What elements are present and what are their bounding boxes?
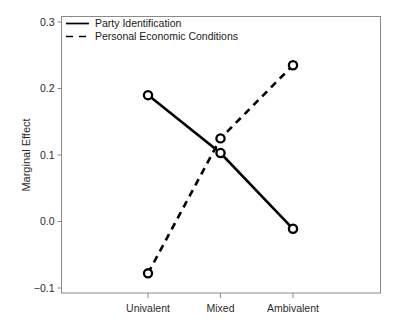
data-point-marker bbox=[216, 149, 224, 157]
data-point-marker bbox=[144, 91, 152, 99]
data-point-marker bbox=[144, 269, 152, 277]
y-tick-label: 0.3 bbox=[40, 16, 55, 28]
y-tick-label: −0.1 bbox=[34, 282, 55, 294]
y-axis-tick-labels: 0.30.20.10.0−0.1 bbox=[34, 16, 55, 294]
y-tick-label: 0.1 bbox=[40, 149, 55, 161]
marginal-effect-line-chart: 0.30.20.10.0−0.1 UnivalentMixedAmbivalen… bbox=[0, 0, 397, 331]
y-tick-label: 0.2 bbox=[40, 82, 55, 94]
data-point-marker bbox=[289, 225, 297, 233]
x-axis-category-labels: UnivalentMixedAmbivalent bbox=[126, 302, 319, 314]
chart-figure: 0.30.20.10.0−0.1 UnivalentMixedAmbivalen… bbox=[0, 0, 397, 331]
y-axis-title: Marginal Effect bbox=[20, 118, 32, 191]
legend-entry-label: Party Identification bbox=[95, 17, 182, 29]
y-tick-label: 0.0 bbox=[40, 215, 55, 227]
x-category-label: Ambivalent bbox=[267, 302, 319, 314]
x-axis-ticks bbox=[148, 293, 293, 298]
legend-entry-label: Personal Economic Conditions bbox=[95, 30, 238, 42]
data-point-marker bbox=[216, 134, 224, 142]
x-category-label: Univalent bbox=[126, 302, 170, 314]
y-axis-ticks bbox=[58, 22, 62, 288]
x-category-label: Mixed bbox=[206, 302, 234, 314]
data-point-marker bbox=[289, 61, 297, 69]
